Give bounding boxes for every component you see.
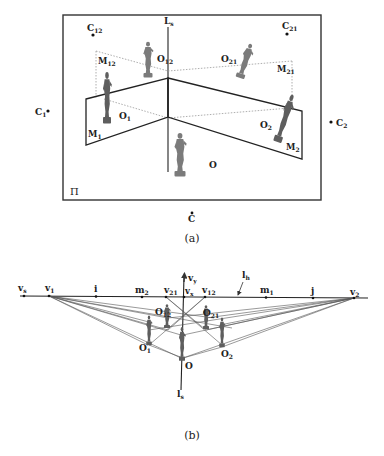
label-o2: O2: [260, 120, 272, 131]
label-v1: v1: [44, 283, 54, 294]
caption-b: (b): [184, 429, 200, 442]
caption-a: (a): [184, 232, 199, 245]
label-m12: M12: [98, 56, 116, 67]
label-m21: M21: [277, 64, 295, 75]
mirror-m1-inner-dotted: [104, 99, 168, 118]
label-o21: O21: [221, 54, 237, 65]
label-m2: m2: [135, 285, 149, 296]
label-o: O: [209, 160, 217, 170]
label-vx: vx: [184, 286, 194, 297]
label-v2: v2: [349, 287, 359, 298]
label-i: i: [94, 284, 98, 294]
horizon-line: [20, 296, 368, 298]
camera-c21-dot: [285, 32, 288, 35]
figure-b: vs v1 i m2 v21 vx v12 m1 j v2 vy lh O12 …: [17, 270, 368, 442]
label-lh: lh: [242, 270, 250, 281]
statue-o1-icon: [103, 72, 112, 123]
label-vs: vs: [17, 283, 27, 294]
label-b-o21: O21: [203, 308, 219, 319]
camera-c2-dot: [329, 120, 332, 123]
mirror-m2: [168, 78, 302, 159]
label-plane-pi: Π: [70, 186, 79, 197]
label-b-o2: O2: [221, 349, 233, 360]
label-m2: M2: [286, 142, 300, 153]
figure-a: Ls C12 C21 C1 C2 C M12 M21 M1 M2 O12 O21…: [35, 15, 347, 245]
lh-pointer-arrow: [238, 282, 243, 295]
statue-b-o-icon: [179, 327, 186, 361]
label-c2: C2: [336, 118, 347, 129]
label-ls: Ls: [164, 16, 174, 27]
camera-c1-dot: [46, 109, 49, 112]
label-o1: O1: [119, 111, 131, 122]
label-b-o: O: [185, 361, 193, 371]
statue-b-o2-icon: [219, 318, 225, 348]
label-c21: C21: [282, 21, 298, 32]
label-v21: v21: [163, 285, 178, 296]
statue-o2-icon: [273, 93, 297, 143]
statue-o-icon: [175, 133, 187, 177]
rays-from-v2: [149, 298, 354, 358]
label-c: C: [188, 214, 195, 224]
label-c1: C1: [35, 107, 46, 118]
label-vy: vy: [187, 273, 197, 285]
label-j: j: [310, 286, 314, 296]
label-m1: M1: [88, 129, 102, 140]
label-m1: m1: [260, 285, 274, 296]
label-c12: C12: [87, 23, 103, 34]
figure-canvas: Ls C12 C21 C1 C2 C M12 M21 M1 M2 O12 O21…: [0, 0, 384, 456]
mirror-m2-inner-dotted: [168, 108, 290, 118]
label-v12: v12: [201, 285, 216, 296]
label-o12: O12: [157, 54, 173, 65]
label-b-ls: ls: [177, 389, 184, 400]
vy-arrow: [184, 273, 185, 282]
plane-frame: [63, 15, 321, 200]
statue-b-o1-icon: [146, 316, 152, 346]
statue-o12-icon: [144, 42, 154, 78]
statue-o21-icon: [236, 43, 256, 80]
